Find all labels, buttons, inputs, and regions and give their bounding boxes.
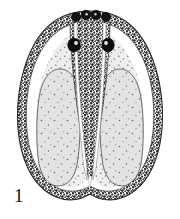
- apical-nodule-1: [71, 12, 80, 21]
- apical-nodule-3-highlight: [94, 13, 96, 15]
- apical-nodule-4: [101, 12, 110, 21]
- apical-nodule-2-highlight: [85, 13, 88, 16]
- right-pale-oval: [100, 69, 144, 186]
- figure-panel: 1: [0, 0, 180, 219]
- right-ocellus-highlight: [104, 41, 108, 45]
- left-ocellus-highlight: [74, 41, 78, 45]
- figure-number-label: 1: [14, 186, 24, 205]
- body-group: [18, 10, 163, 200]
- left-pale-oval: [37, 69, 81, 186]
- scientific-illustration: [0, 0, 180, 219]
- right-ocellus: [102, 38, 114, 52]
- left-ocellus: [68, 38, 80, 52]
